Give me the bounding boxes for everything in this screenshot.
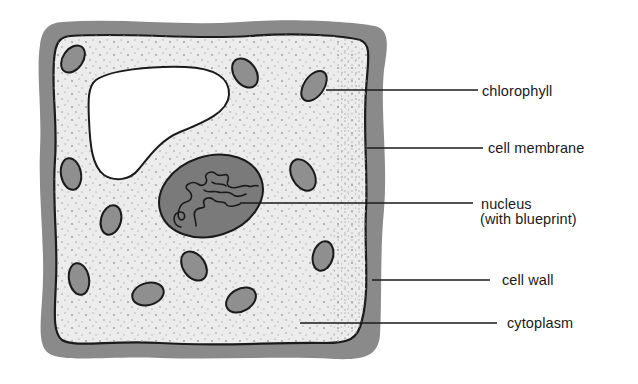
label-cell-wall: cell wall [502,273,554,288]
label-chlorophyll: chlorophyll [482,84,552,99]
label-cell-membrane: cell membrane [488,141,584,156]
label-nucleus-subtext: (with blueprint) [480,212,577,227]
label-nucleus: nucleus [481,197,532,212]
label-cytoplasm: cytoplasm [507,316,573,331]
